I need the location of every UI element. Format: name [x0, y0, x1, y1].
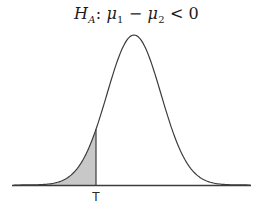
normal-curve: [14, 35, 250, 185]
distribution-figure: HA:μ1−μ2<0 T: [0, 0, 257, 207]
t-tick-label: T: [91, 190, 100, 204]
distribution-plot: T: [0, 0, 257, 207]
